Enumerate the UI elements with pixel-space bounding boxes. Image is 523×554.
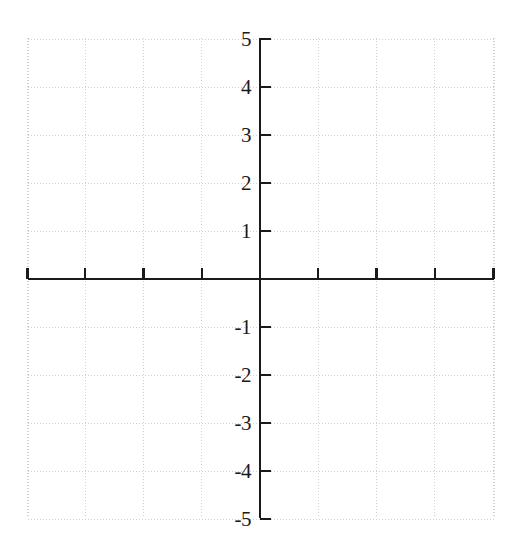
y-axis-tick-label: 3: [241, 125, 251, 146]
y-axis-tick-label: 2: [241, 173, 251, 194]
y-axis-tick-label: -5: [235, 509, 252, 530]
y-axis-tick-label: -2: [235, 365, 252, 386]
y-axis-tick-label: -3: [235, 413, 252, 434]
y-axis-tick-label: 5: [241, 29, 251, 50]
graph-canvas: [0, 0, 523, 554]
y-axis-tick-label: 4: [241, 77, 251, 98]
y-axis-tick-label: 1: [241, 221, 251, 242]
coordinate-plane-graph: 54321-1-2-3-4-5: [0, 0, 523, 554]
y-axis-tick-label: -1: [235, 317, 252, 338]
y-axis-tick-label: -4: [235, 461, 252, 482]
